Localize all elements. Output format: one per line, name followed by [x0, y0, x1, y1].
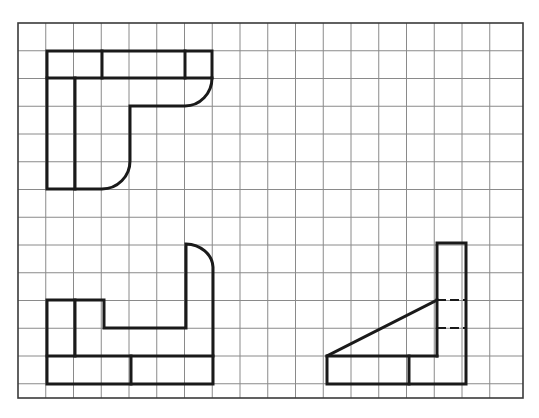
front-view — [47, 244, 213, 384]
drawing-canvas — [0, 0, 539, 418]
side-view-outline — [327, 243, 466, 384]
side-view — [327, 243, 466, 384]
